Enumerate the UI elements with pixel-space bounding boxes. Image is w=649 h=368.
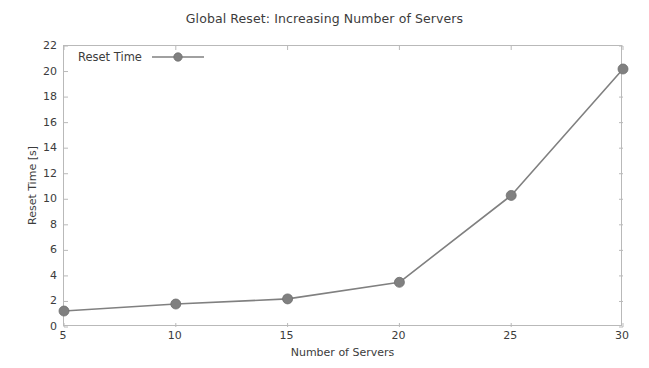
y-tick-label: 4 [0, 269, 57, 282]
plot-canvas [64, 46, 623, 327]
y-axis-label: Reset Time [s] [26, 45, 42, 326]
x-tick-label: 5 [43, 329, 83, 342]
plot-area [63, 45, 622, 326]
legend-line-marker-icon [150, 50, 206, 64]
y-tick-label: 18 [0, 90, 57, 103]
data-point [283, 294, 293, 304]
y-tick-label: 14 [0, 141, 57, 154]
x-axis-label: Number of Servers [63, 346, 622, 359]
x-tick-label: 25 [490, 329, 530, 342]
data-point [618, 64, 628, 74]
chart-figure: Global Reset: Increasing Number of Serve… [0, 0, 649, 368]
x-tick-label: 15 [267, 329, 307, 342]
x-tick-label: 30 [602, 329, 642, 342]
chart-title: Global Reset: Increasing Number of Serve… [0, 11, 649, 26]
y-tick-label: 12 [0, 167, 57, 180]
x-tick-label: 10 [155, 329, 195, 342]
data-point [506, 190, 516, 200]
series-line-reset-time [64, 69, 623, 311]
chart-legend: Reset Time [78, 50, 206, 64]
y-tick-label: 16 [0, 116, 57, 129]
axis-tick-marks [64, 46, 623, 327]
y-tick-label: 10 [0, 192, 57, 205]
data-point [59, 306, 69, 316]
series-markers-reset-time [59, 64, 628, 316]
data-point [171, 299, 181, 309]
data-point [394, 277, 404, 287]
y-tick-label: 22 [0, 39, 57, 52]
y-tick-label: 2 [0, 294, 57, 307]
x-tick-label: 20 [378, 329, 418, 342]
y-tick-label: 8 [0, 218, 57, 231]
y-tick-label: 20 [0, 65, 57, 78]
y-tick-label: 6 [0, 243, 57, 256]
legend-label-reset-time: Reset Time [78, 50, 142, 64]
